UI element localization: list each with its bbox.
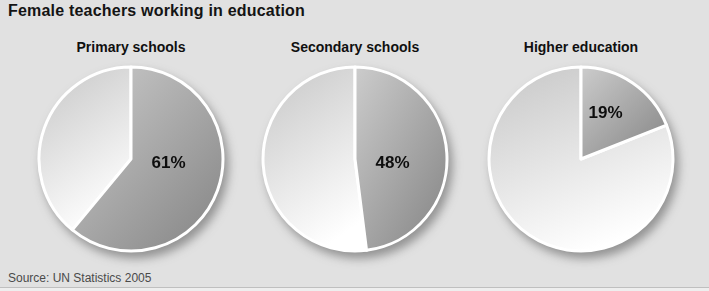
chart-title-secondary-schools: Secondary schools <box>254 39 456 55</box>
figure-panel: Female teachers working in education Pri… <box>0 0 709 291</box>
pie-percentage-label: 48% <box>376 153 410 172</box>
pie-chart-secondary-schools: 48% <box>254 58 456 260</box>
source-caption: Source: UN Statistics 2005 <box>8 271 151 285</box>
pie-chart-primary-schools: 61% <box>30 58 232 260</box>
pie-slice-remainder <box>263 67 367 251</box>
figure-title: Female teachers working in education <box>8 2 305 20</box>
chart-primary-schools: Primary schools 61% <box>30 39 232 260</box>
chart-secondary-schools: Secondary schools 48% <box>254 39 456 260</box>
pie-svg: 61% <box>30 58 232 260</box>
chart-title-higher-education: Higher education <box>480 39 682 55</box>
pie-percentage-label: 19% <box>589 103 623 122</box>
pie-chart-higher-education: 19% <box>480 58 682 260</box>
chart-title-primary-schools: Primary schools <box>30 39 232 55</box>
chart-higher-education: Higher education 19% <box>480 39 682 260</box>
pie-svg: 48% <box>254 58 456 260</box>
pie-percentage-label: 61% <box>152 153 186 172</box>
pie-svg: 19% <box>480 58 682 260</box>
